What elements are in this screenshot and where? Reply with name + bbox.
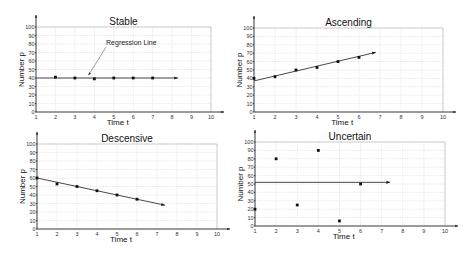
data-point (112, 77, 115, 80)
y-tick-label: 80 (247, 156, 253, 162)
data-point (275, 157, 278, 160)
y-tick-label: 50 (28, 67, 34, 73)
data-point (36, 177, 39, 180)
x-tick-label: 1 (35, 231, 38, 237)
data-point (54, 76, 57, 79)
chart-title: Ascending (325, 17, 372, 28)
x-tick-label: 1 (34, 114, 37, 120)
x-tick-label: 7 (151, 114, 154, 120)
x-tick-label: 3 (294, 114, 297, 120)
y-tick-label: 80 (29, 158, 35, 164)
y-tick-label: 100 (25, 24, 34, 30)
x-axis-label: Time t (107, 118, 130, 127)
y-tick-label: 10 (28, 101, 34, 107)
data-point (359, 183, 362, 186)
y-tick-label: 100 (26, 141, 35, 147)
y-tick-label: 60 (28, 58, 34, 64)
y-tick-label: 40 (29, 192, 35, 198)
y-tick-label: 100 (243, 25, 252, 31)
x-tick-label: 10 (208, 114, 214, 120)
y-tick-label: 50 (29, 184, 35, 190)
x-tick-label: 1 (253, 228, 256, 234)
arrowhead-icon (453, 111, 456, 113)
arrowhead-icon (227, 228, 230, 230)
y-tick-label: 40 (246, 75, 252, 81)
chart-grid: 010203040506070809010012345678910 Stable… (0, 0, 475, 256)
data-point (96, 189, 99, 192)
chart-title: Stable (109, 16, 138, 27)
x-tick-label: 2 (54, 114, 57, 120)
plot-area: 010203040506070809010012345678910 (25, 15, 224, 120)
data-point (132, 77, 135, 80)
data-point (253, 77, 256, 80)
x-tick-label: 8 (175, 231, 178, 237)
x-tick-label: 4 (95, 231, 98, 237)
x-tick-label: 8 (399, 114, 402, 120)
y-axis-label: Number p (17, 51, 26, 87)
x-tick-label: 2 (275, 228, 278, 234)
x-tick-label: 6 (359, 228, 362, 234)
data-point (136, 198, 139, 201)
x-tick-label: 10 (440, 114, 446, 120)
data-point (295, 69, 298, 72)
x-axis-label: Time t (333, 232, 356, 241)
y-tick-label: 20 (247, 206, 253, 212)
y-tick-label: 10 (246, 101, 252, 107)
regression-line (37, 178, 165, 205)
chart-descensive: 010203040506070809010012345678910 Descen… (18, 132, 230, 244)
y-axis-label: Number p (18, 168, 27, 204)
data-point (337, 60, 340, 63)
y-tick-label: 80 (246, 42, 252, 48)
data-point (73, 77, 76, 80)
arrowhead-icon (386, 181, 390, 184)
y-tick-label: 90 (28, 33, 34, 39)
chart-title: Uncertain (329, 131, 372, 142)
data-point (338, 220, 341, 223)
arrowhead-icon (253, 16, 255, 19)
data-point (316, 66, 319, 69)
y-tick-label: 70 (247, 164, 253, 170)
data-point (76, 185, 79, 188)
data-point (116, 194, 119, 197)
x-tick-label: 7 (380, 228, 383, 234)
regression-line-annotation: Regression Line (106, 39, 157, 47)
y-tick-label: 70 (29, 167, 35, 173)
x-axis-label: Time t (331, 118, 354, 127)
x-tick-label: 6 (132, 114, 135, 120)
arrowhead-icon (35, 15, 37, 18)
data-point (254, 208, 257, 211)
x-tick-label: 1 (252, 114, 255, 120)
y-tick-label: 60 (246, 59, 252, 65)
arrowhead-icon (36, 132, 38, 135)
y-tick-label: 20 (28, 92, 34, 98)
plot-area: 010203040506070809010012345678910 (243, 16, 456, 120)
y-tick-label: 40 (247, 189, 253, 195)
x-tick-label: 8 (171, 114, 174, 120)
chart-title: Descensive (101, 133, 153, 144)
x-tick-label: 7 (378, 114, 381, 120)
x-tick-label: 10 (214, 231, 220, 237)
y-tick-label: 30 (247, 198, 253, 204)
y-tick-label: 70 (246, 50, 252, 56)
y-tick-label: 50 (246, 67, 252, 73)
chart-stable: 010203040506070809010012345678910 Stable… (17, 15, 224, 127)
x-tick-label: 4 (93, 114, 96, 120)
y-tick-label: 60 (247, 173, 253, 179)
x-tick-label: 2 (273, 114, 276, 120)
arrowhead-icon (254, 130, 256, 133)
y-tick-label: 90 (29, 150, 35, 156)
y-axis-label: Number p (236, 166, 245, 202)
data-point (317, 149, 320, 152)
data-point (296, 204, 299, 207)
y-tick-label: 100 (244, 139, 253, 145)
x-tick-label: 6 (135, 231, 138, 237)
x-tick-label: 7 (155, 231, 158, 237)
y-tick-label: 20 (29, 209, 35, 215)
x-tick-label: 4 (317, 228, 320, 234)
chart-uncertain: 010203040506070809010012345678910 Uncert… (236, 130, 458, 241)
y-tick-label: 10 (29, 218, 35, 224)
regression-line (254, 52, 376, 81)
x-tick-label: 9 (420, 114, 423, 120)
y-tick-label: 80 (28, 41, 34, 47)
y-tick-label: 70 (28, 50, 34, 56)
